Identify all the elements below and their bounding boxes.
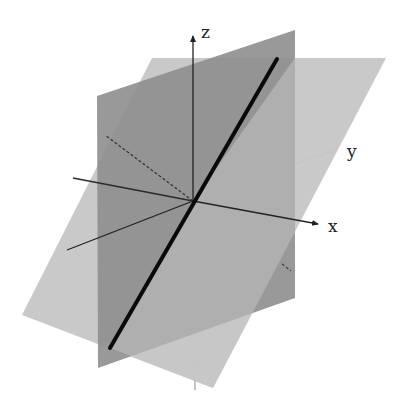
plane-2-left-front (22, 165, 98, 342)
x-axis-label: x (328, 216, 338, 236)
intersecting-planes-diagram: z x y (0, 0, 407, 405)
z-axis-label: z (201, 22, 210, 42)
y-axis-label: y (346, 141, 357, 161)
